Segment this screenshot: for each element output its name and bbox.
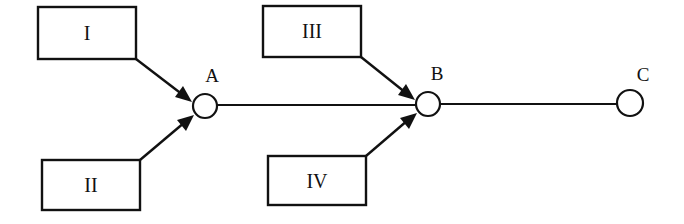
node-b: B: [416, 63, 443, 116]
box-i: I: [38, 7, 136, 59]
box-iv: IV: [268, 156, 366, 205]
arrow-iii-to-b: [361, 57, 415, 100]
box-ii: II: [42, 160, 140, 210]
arrowhead-icon: [398, 84, 415, 100]
node-a: A: [193, 65, 219, 118]
node-label: B: [431, 63, 444, 84]
box-iii: III: [263, 6, 361, 57]
arrow-i-to-a: [136, 59, 192, 102]
node-label: A: [205, 65, 219, 86]
box-label: II: [84, 174, 97, 196]
node-label: C: [637, 64, 650, 85]
node-c: C: [617, 64, 649, 116]
arrow-iv-to-b: [366, 113, 417, 156]
arrowhead-icon: [177, 115, 194, 131]
box-label: IV: [306, 170, 328, 192]
arrowhead-icon: [175, 86, 192, 102]
box-label: III: [302, 20, 322, 42]
box-label: I: [84, 22, 91, 44]
arrow-ii-to-a: [140, 115, 194, 160]
flow-diagram: I II III IV A B C: [0, 0, 684, 224]
arrowhead-icon: [400, 113, 417, 129]
